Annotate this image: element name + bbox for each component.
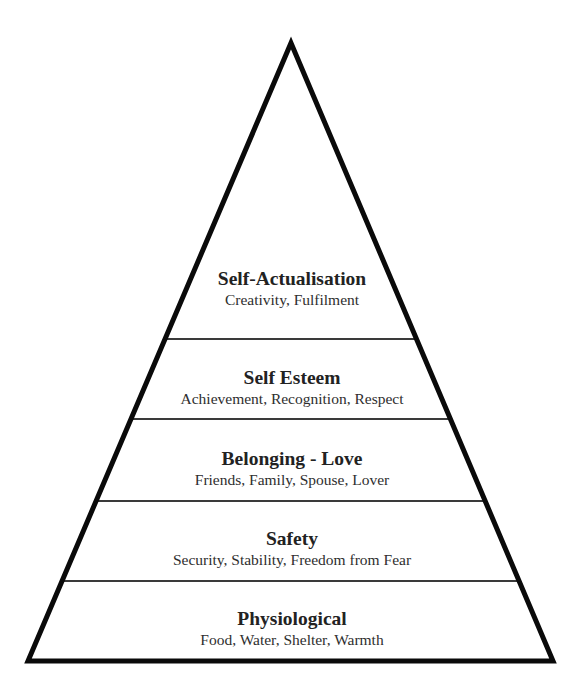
tier-physiological: Physiological Food, Water, Shelter, Warm…	[0, 608, 584, 649]
tier-subtitle: Security, Stability, Freedom from Fear	[0, 550, 584, 569]
tier-title: Self Esteem	[0, 367, 584, 389]
tier-safety: Safety Security, Stability, Freedom from…	[0, 528, 584, 569]
tier-self-esteem: Self Esteem Achievement, Recognition, Re…	[0, 367, 584, 408]
tier-title: Self-Actualisation	[0, 268, 584, 290]
tier-title: Safety	[0, 528, 584, 550]
tier-title: Belonging - Love	[0, 448, 584, 470]
tier-subtitle: Creativity, Fulfilment	[0, 290, 584, 309]
tier-subtitle: Achievement, Recognition, Respect	[0, 389, 584, 408]
tier-belonging-love: Belonging - Love Friends, Family, Spouse…	[0, 448, 584, 489]
pyramid-outline	[0, 0, 584, 697]
tier-self-actualisation: Self-Actualisation Creativity, Fulfilmen…	[0, 268, 584, 309]
tier-subtitle: Friends, Family, Spouse, Lover	[0, 470, 584, 489]
tier-title: Physiological	[0, 608, 584, 630]
tier-subtitle: Food, Water, Shelter, Warmth	[0, 630, 584, 649]
